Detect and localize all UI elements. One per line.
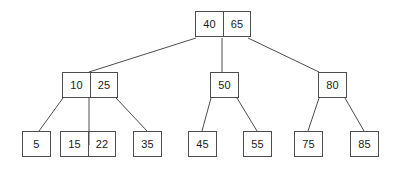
tree-node-root[interactable]: 40 65 bbox=[195, 11, 251, 37]
key-cell: 35 bbox=[134, 132, 161, 156]
key-cell: 55 bbox=[244, 132, 271, 156]
tree-diagram-canvas: 40 65 10 25 50 80 5 15 22 35 45 55 75 85 bbox=[0, 0, 400, 170]
key-cell: 85 bbox=[351, 132, 378, 156]
key-cell: 75 bbox=[295, 132, 322, 156]
tree-node-leaf-7[interactable]: 85 bbox=[350, 131, 379, 157]
tree-edge bbox=[116, 98, 147, 131]
tree-node-leaf-3[interactable]: 35 bbox=[133, 131, 162, 157]
tree-edge bbox=[345, 98, 364, 131]
tree-node-leaf-5[interactable]: 55 bbox=[243, 131, 272, 157]
tree-node-internal-left[interactable]: 10 25 bbox=[62, 72, 118, 98]
tree-edge bbox=[39, 98, 63, 131]
tree-node-internal-middle[interactable]: 50 bbox=[210, 72, 239, 98]
tree-node-leaf-4[interactable]: 45 bbox=[188, 131, 217, 157]
tree-edge bbox=[237, 98, 257, 131]
tree-edge bbox=[202, 98, 211, 131]
tree-edge bbox=[89, 38, 196, 72]
tree-node-leaf-6[interactable]: 75 bbox=[294, 131, 323, 157]
key-cell: 40 bbox=[196, 12, 223, 36]
tree-node-leaf-1[interactable]: 5 bbox=[22, 131, 51, 157]
tree-edge bbox=[248, 38, 319, 72]
tree-node-internal-right[interactable]: 80 bbox=[318, 72, 347, 98]
key-cell: 80 bbox=[319, 73, 346, 97]
key-cell: 22 bbox=[88, 132, 115, 156]
key-cell: 25 bbox=[90, 73, 117, 97]
key-cell: 50 bbox=[211, 73, 238, 97]
tree-edge bbox=[308, 98, 319, 131]
key-cell: 5 bbox=[23, 132, 50, 156]
key-cell: 65 bbox=[223, 12, 250, 36]
key-cell: 10 bbox=[63, 73, 90, 97]
tree-node-leaf-2[interactable]: 15 22 bbox=[60, 131, 116, 157]
key-cell: 15 bbox=[61, 132, 88, 156]
key-cell: 45 bbox=[189, 132, 216, 156]
